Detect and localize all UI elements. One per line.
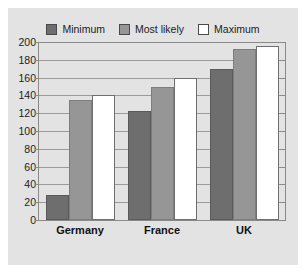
legend-swatch-minimum: [46, 24, 57, 35]
chart-legend: Minimum Most likely Maximum: [8, 19, 298, 39]
chart-container: Minimum Most likely Maximum 020406080100…: [8, 8, 298, 265]
right-axis-line: [285, 42, 286, 221]
bar-uk-maximum: [256, 46, 279, 220]
bar-france-minimum: [128, 111, 151, 220]
bar-france-most-likely: [151, 87, 174, 221]
legend-item-minimum: Minimum: [46, 24, 105, 35]
legend-label-most-likely: Most likely: [135, 24, 184, 35]
bar-uk-most-likely: [233, 49, 256, 220]
legend-label-minimum: Minimum: [62, 24, 105, 35]
y-tick-label: 160: [18, 72, 36, 84]
x-tick-label-uk: UK: [236, 224, 252, 236]
bar-germany-minimum: [46, 195, 69, 220]
legend-swatch-most-likely: [119, 24, 130, 35]
bar-uk-minimum: [210, 69, 233, 220]
legend-swatch-maximum: [198, 24, 209, 35]
legend-label-maximum: Maximum: [214, 24, 260, 35]
right-axis-tick: [280, 220, 285, 221]
y-axis: 020406080100120140160180200: [8, 42, 36, 220]
bar-germany-most-likely: [69, 100, 92, 220]
bar-france-maximum: [174, 78, 197, 220]
legend-item-most-likely: Most likely: [119, 24, 184, 35]
plot-wrapper: 020406080100120140160180200 GermanyFranc…: [8, 42, 298, 232]
y-tick-label: 140: [18, 89, 36, 101]
legend-item-maximum: Maximum: [198, 24, 260, 35]
y-tick-label: 180: [18, 54, 36, 66]
bar-germany-maximum: [92, 95, 115, 220]
x-tick-label-france: France: [144, 224, 180, 236]
y-tick-label: 100: [18, 125, 36, 137]
y-tick-label: 200: [18, 36, 36, 48]
x-axis: GermanyFranceUK: [39, 224, 285, 244]
bars-layer: [39, 42, 285, 220]
x-tick-label-germany: Germany: [56, 224, 104, 236]
y-tick-label: 120: [18, 107, 36, 119]
y-tick-mark: [35, 220, 39, 221]
